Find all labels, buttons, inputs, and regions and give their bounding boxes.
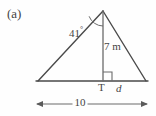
geometry-figure: (a) 41° 7 m T d 10	[0, 0, 156, 116]
foot-point-label: T	[98, 82, 105, 93]
dimension-arrow-left-icon	[36, 101, 43, 107]
apex-angle-label: 41°	[69, 26, 83, 39]
apex-angle-value: 41	[69, 27, 80, 39]
dimension-arrow-right-icon	[141, 101, 148, 107]
triangle-left-side	[38, 11, 103, 81]
altitude-length-label: 7 m	[104, 41, 121, 52]
part-label: (a)	[7, 7, 21, 20]
unknown-segment-label: d	[116, 83, 122, 94]
degree-symbol: °	[80, 25, 83, 34]
right-angle-marker	[103, 72, 112, 81]
base-dimension-label: 10	[73, 97, 88, 108]
